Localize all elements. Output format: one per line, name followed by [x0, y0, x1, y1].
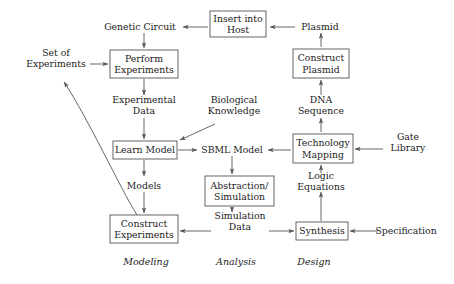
- edge-biological-knowledge-to-learn-model: [180, 124, 215, 140]
- node-label-learn-model: Learn Model: [115, 144, 175, 155]
- node-insert-into-host[interactable]: Insert intoHost: [210, 11, 266, 37]
- boxes-layer: Insert intoHostPerformExperimentsConstru…: [110, 11, 353, 243]
- label-set-of-experiments: Set ofExperiments: [26, 47, 86, 69]
- node-label-construct-plasmid: ConstructPlasmid: [298, 52, 345, 74]
- label-sbml-model: SBML Model: [201, 144, 262, 155]
- label-dna-sequence: DNASequence: [298, 94, 345, 116]
- label-biological-knowledge: BiologicalKnowledge: [208, 94, 261, 116]
- node-learn-model[interactable]: Learn Model: [113, 141, 177, 159]
- phase-labels-layer: ModelingAnalysisDesign: [122, 256, 330, 267]
- node-construct-experiments[interactable]: ConstructExperiments: [110, 215, 178, 243]
- phase-label-analysis: Analysis: [215, 256, 256, 267]
- label-experimental-data: ExperimentalData: [112, 94, 175, 116]
- node-technology-mapping[interactable]: TechnologyMapping: [293, 134, 353, 163]
- node-synthesis[interactable]: Synthesis: [296, 222, 348, 240]
- label-plasmid: Plasmid: [301, 21, 338, 32]
- phase-label-modeling: Modeling: [122, 256, 168, 267]
- node-abstraction-simulation[interactable]: Abstraction/Simulation: [205, 176, 274, 206]
- flowchart-diagram: Insert intoHostPerformExperimentsConstru…: [0, 0, 454, 284]
- node-label-construct-experiments: ConstructExperiments: [114, 218, 174, 240]
- node-label-technology-mapping: TechnologyMapping: [296, 137, 350, 159]
- phase-label-design: Design: [296, 256, 330, 267]
- label-genetic-circuit: Genetic Circuit: [104, 21, 176, 32]
- label-logic-equations: LogicEquations: [297, 170, 345, 192]
- label-models: Models: [127, 180, 162, 191]
- node-construct-plasmid[interactable]: ConstructPlasmid: [293, 49, 349, 78]
- label-simulation-data: SimulationData: [215, 210, 266, 232]
- label-specification: Specification: [375, 225, 436, 236]
- node-label-synthesis: Synthesis: [299, 225, 345, 236]
- node-label-abstraction-simulation: Abstraction/Simulation: [210, 180, 270, 202]
- label-gate-library: GateLibrary: [391, 131, 427, 153]
- node-perform-experiments[interactable]: PerformExperiments: [110, 50, 178, 78]
